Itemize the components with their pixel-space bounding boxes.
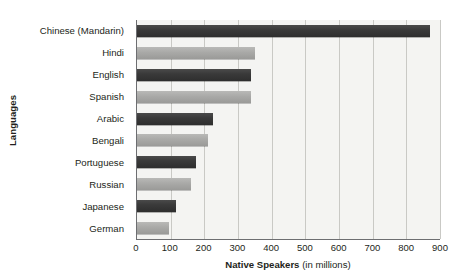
bar[interactable] bbox=[137, 156, 196, 168]
x-tick-label: 600 bbox=[331, 242, 347, 253]
plot-area bbox=[136, 20, 440, 240]
category-label: English bbox=[26, 64, 130, 86]
x-tick-label: 400 bbox=[263, 242, 279, 253]
x-axis-tick-labels: 0100200300400500600700800900 bbox=[136, 242, 440, 256]
bar-slot bbox=[137, 195, 440, 217]
bar-slot bbox=[137, 42, 440, 64]
bar[interactable] bbox=[137, 47, 255, 59]
category-label: Russian bbox=[26, 174, 130, 196]
x-tick-label: 900 bbox=[432, 242, 448, 253]
bar-slot bbox=[137, 20, 440, 42]
x-axis-title-rest: (in millions) bbox=[299, 259, 350, 270]
bar-chart-figure: Languages Chinese (Mandarin)HindiEnglish… bbox=[0, 0, 463, 279]
category-label: Japanese bbox=[26, 196, 130, 218]
bar-slot bbox=[137, 86, 440, 108]
category-label: Spanish bbox=[26, 86, 130, 108]
bar[interactable] bbox=[137, 178, 191, 190]
category-label: Arabic bbox=[26, 108, 130, 130]
bar-slot bbox=[137, 151, 440, 173]
category-label: Bengali bbox=[26, 130, 130, 152]
x-axis-title-strong: Native Speakers bbox=[225, 259, 299, 270]
bar[interactable] bbox=[137, 25, 430, 37]
bar[interactable] bbox=[137, 134, 208, 146]
bar[interactable] bbox=[137, 200, 176, 212]
category-label: Portuguese bbox=[26, 152, 130, 174]
bars-layer bbox=[137, 20, 440, 239]
category-label: German bbox=[26, 218, 130, 240]
category-label: Hindi bbox=[26, 42, 130, 64]
x-axis-title: Native Speakers (in millions) bbox=[136, 259, 440, 270]
gridline bbox=[440, 20, 441, 239]
bar-slot bbox=[137, 217, 440, 239]
x-tick-label: 800 bbox=[398, 242, 414, 253]
x-tick-label: 500 bbox=[297, 242, 313, 253]
bar-slot bbox=[137, 108, 440, 130]
x-tick-label: 300 bbox=[229, 242, 245, 253]
x-tick-label: 0 bbox=[133, 242, 138, 253]
bar-slot bbox=[137, 64, 440, 86]
bar[interactable] bbox=[137, 91, 251, 103]
category-label: Chinese (Mandarin) bbox=[26, 20, 130, 42]
x-tick-label: 200 bbox=[196, 242, 212, 253]
bar[interactable] bbox=[137, 113, 213, 125]
y-axis-category-labels: Chinese (Mandarin)HindiEnglishSpanishAra… bbox=[26, 20, 130, 240]
bar-slot bbox=[137, 130, 440, 152]
y-axis-title-text: Languages bbox=[8, 94, 19, 145]
bar-slot bbox=[137, 173, 440, 195]
x-tick-label: 700 bbox=[365, 242, 381, 253]
bar[interactable] bbox=[137, 69, 251, 81]
x-tick-label: 100 bbox=[162, 242, 178, 253]
y-axis-title: Languages bbox=[0, 0, 26, 240]
bar[interactable] bbox=[137, 222, 169, 234]
